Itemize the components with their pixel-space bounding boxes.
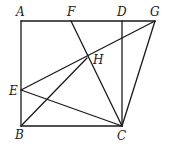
geometry-figure: AFDGHEBC [0,0,169,154]
segments [21,21,155,126]
point-label-f: F [66,5,76,19]
point-label-a: A [15,5,25,19]
point-label-c: C [117,129,126,143]
figure-canvas: AFDGHEBC [0,0,169,154]
point-label-e: E [8,84,18,98]
point-labels: AFDGHEBC [8,5,160,143]
point-label-b: B [14,128,24,142]
point-label-h: H [92,53,104,67]
point-label-g: G [150,5,160,19]
segment-gc [122,21,155,126]
segment-eg [21,21,155,90]
segment-bh [21,58,87,126]
point-label-d: D [116,5,127,19]
